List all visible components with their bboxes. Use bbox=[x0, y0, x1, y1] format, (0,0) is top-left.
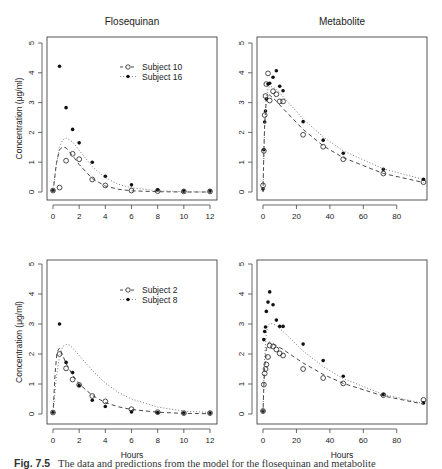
data-point-open bbox=[321, 144, 326, 149]
data-point-filled bbox=[130, 183, 134, 187]
data-point-open bbox=[301, 367, 306, 372]
y-tick-label: 3 bbox=[27, 321, 36, 326]
series-subject-2-fit bbox=[53, 348, 210, 414]
x-tick-label: 80 bbox=[392, 212, 401, 221]
data-point-filled bbox=[262, 338, 266, 342]
series-subject-16 bbox=[51, 64, 212, 192]
data-point-filled bbox=[268, 290, 272, 294]
y-tick-label: 3 bbox=[237, 100, 246, 105]
series-subject-10-fit bbox=[263, 95, 424, 192]
x-axis: 020406080 bbox=[261, 429, 402, 445]
dotted-fit-line bbox=[263, 86, 424, 192]
plot-frame bbox=[47, 37, 217, 200]
y-axis-label: Concentration (μg/ml) bbox=[14, 77, 24, 159]
data-point-filled bbox=[58, 322, 62, 326]
legend: Subject 2Subject 8 bbox=[120, 285, 178, 305]
data-point-filled bbox=[271, 75, 275, 79]
legend: Subject 10Subject 16 bbox=[120, 62, 182, 82]
data-point-open bbox=[266, 71, 271, 76]
y-tick-label: 2 bbox=[27, 351, 36, 356]
data-point-open bbox=[57, 185, 62, 190]
y-tick-label: 1 bbox=[27, 381, 36, 386]
series-subject-2 bbox=[261, 343, 426, 413]
y-axis: 012345 bbox=[27, 40, 42, 194]
data-point-filled bbox=[130, 410, 134, 414]
y-tick-label: 4 bbox=[27, 70, 36, 75]
data-point-filled bbox=[281, 89, 285, 93]
series-subject-8-fit bbox=[263, 323, 424, 414]
data-point-open bbox=[64, 158, 69, 163]
x-axis: 020406080 bbox=[261, 205, 402, 221]
data-point-filled bbox=[64, 361, 68, 365]
data-point-filled bbox=[268, 81, 272, 85]
panel-title: Metabolite bbox=[319, 16, 366, 27]
dashed-fit-line bbox=[53, 348, 210, 414]
y-tick-label: 5 bbox=[27, 40, 36, 45]
data-point-open bbox=[266, 355, 271, 360]
panel-top-left: 024681012012345FlosequinanConcentration … bbox=[14, 16, 217, 221]
figure-caption: Fig. 7.5 The data and predictions from t… bbox=[14, 457, 376, 469]
y-tick-label: 5 bbox=[237, 40, 246, 45]
x-tick-label: 12 bbox=[206, 212, 215, 221]
series-subject-2 bbox=[51, 352, 213, 416]
data-point-filled bbox=[266, 300, 270, 304]
x-tick-label: 60 bbox=[359, 212, 368, 221]
x-tick-label: 4 bbox=[103, 212, 108, 221]
plot-frame bbox=[257, 37, 427, 200]
x-tick-label: 8 bbox=[155, 436, 160, 445]
x-tick-label: 6 bbox=[129, 436, 134, 445]
y-tick-label: 4 bbox=[237, 70, 246, 75]
data-point-open bbox=[301, 132, 306, 137]
dotted-fit-line bbox=[263, 323, 424, 414]
x-tick-label: 0 bbox=[51, 436, 56, 445]
data-point-filled bbox=[278, 325, 282, 329]
x-axis: 024681012 bbox=[51, 429, 215, 445]
data-point-filled bbox=[90, 160, 94, 164]
x-tick-label: 2 bbox=[77, 436, 82, 445]
data-point-filled bbox=[382, 168, 386, 172]
data-point-filled bbox=[71, 128, 75, 132]
data-point-open bbox=[281, 99, 286, 104]
series-subject-16-fit bbox=[263, 86, 424, 192]
series-subject-8 bbox=[51, 322, 212, 415]
data-point-filled bbox=[271, 303, 275, 307]
x-tick-label: 0 bbox=[261, 436, 266, 445]
data-point-filled bbox=[77, 141, 81, 145]
y-axis-label: Concentration (μg/ml) bbox=[14, 301, 24, 383]
data-point-open bbox=[321, 376, 326, 381]
data-point-open bbox=[262, 113, 267, 118]
data-point-filled bbox=[301, 120, 305, 124]
y-axis: 012345 bbox=[237, 261, 252, 416]
data-point-filled bbox=[321, 359, 325, 363]
y-tick-label: 1 bbox=[237, 159, 246, 164]
y-tick-label: 0 bbox=[27, 189, 36, 194]
x-tick-label: 40 bbox=[325, 436, 334, 445]
x-tick-label: 4 bbox=[103, 436, 108, 445]
y-tick-label: 3 bbox=[237, 321, 246, 326]
y-tick-label: 0 bbox=[237, 189, 246, 194]
x-tick-label: 60 bbox=[359, 436, 368, 445]
legend-label: Subject 8 bbox=[142, 295, 178, 305]
x-tick-label: 6 bbox=[129, 212, 134, 221]
x-tick-label: 40 bbox=[325, 212, 334, 221]
y-tick-label: 2 bbox=[237, 130, 246, 135]
y-tick-label: 4 bbox=[237, 291, 246, 296]
data-point-filled bbox=[104, 405, 108, 409]
data-point-filled bbox=[275, 318, 279, 322]
x-tick-label: 12 bbox=[206, 436, 215, 445]
x-axis: 024681012 bbox=[51, 205, 215, 221]
data-point-filled bbox=[264, 325, 268, 329]
y-tick-label: 0 bbox=[27, 411, 36, 416]
x-tick-label: 2 bbox=[77, 212, 82, 221]
panel-bottom-left: 024681012012345HoursConcentration (μg/ml… bbox=[14, 260, 217, 460]
y-axis: 012345 bbox=[27, 261, 42, 416]
panel-top-right: 020406080012345Metabolite bbox=[237, 16, 427, 221]
x-tick-label: 0 bbox=[261, 212, 266, 221]
data-point-filled bbox=[301, 342, 305, 346]
data-point-filled bbox=[281, 325, 285, 329]
y-tick-label: 2 bbox=[27, 130, 36, 135]
legend-label: Subject 10 bbox=[142, 62, 182, 72]
y-tick-label: 4 bbox=[27, 291, 36, 296]
data-point-filled bbox=[321, 138, 325, 142]
